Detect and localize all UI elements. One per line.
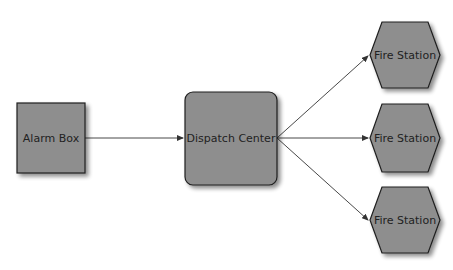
node-fire-station-1[interactable]: Fire Station: [370, 22, 440, 88]
edge-dispatch-to-fire-station-1: [277, 56, 368, 138]
node-label: Fire Station: [374, 49, 436, 62]
diagram-canvas: Alarm Box Dispatch Center Fire Station F…: [0, 0, 453, 270]
node-label: Fire Station: [374, 132, 436, 145]
edge-dispatch-to-fire-station-3: [277, 138, 368, 220]
node-dispatch-center[interactable]: Dispatch Center: [185, 92, 277, 185]
node-fire-station-3[interactable]: Fire Station: [370, 187, 440, 253]
node-label: Alarm Box: [23, 132, 80, 145]
node-fire-station-2[interactable]: Fire Station: [370, 104, 440, 172]
node-alarm-box[interactable]: Alarm Box: [17, 103, 85, 173]
node-label: Fire Station: [374, 214, 436, 227]
node-label: Dispatch Center: [187, 132, 276, 145]
